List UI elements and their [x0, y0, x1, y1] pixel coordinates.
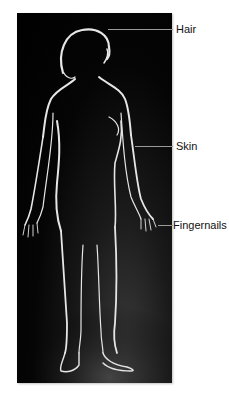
face-profile: [104, 49, 108, 63]
right-arm-outer: [131, 135, 153, 219]
hair-label: Hair: [176, 23, 196, 35]
torso-left-edge: [56, 121, 61, 231]
skin-label: Skin: [176, 140, 197, 152]
floor-shadow: [17, 263, 172, 383]
chest-contour: [109, 117, 119, 135]
hair-bottom: [64, 73, 75, 78]
left-hand-fingers: [23, 223, 38, 237]
fingernails-label: Fingernails: [173, 219, 227, 231]
left-arm-outer: [25, 137, 43, 225]
fingernails-leader-line: [158, 225, 173, 226]
hair-leader-line: [108, 29, 173, 30]
skin-leader-line: [135, 146, 173, 147]
left-arm-inner: [37, 113, 53, 223]
hair-outline: [61, 29, 109, 73]
right-hand-fingers: [141, 219, 156, 231]
torso-right-edge: [114, 121, 121, 227]
figure-photo: [17, 13, 172, 383]
right-shoulder: [99, 77, 131, 135]
body-silhouette: [17, 13, 172, 383]
